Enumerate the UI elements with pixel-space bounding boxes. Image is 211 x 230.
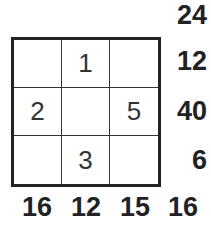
grid-cell-r2c1[interactable]: 3 [62,136,110,184]
grid-cell-r0c1[interactable]: 1 [62,40,110,88]
column-sum-1: 12 [61,192,111,223]
corner-sum: 24 [157,0,207,31]
grid-cell-r2c2[interactable] [110,136,158,184]
puzzle-grid: 1 2 5 3 [11,37,161,187]
grid-cell-r2c0[interactable] [14,136,62,184]
grid-cell-r1c0[interactable]: 2 [14,88,62,136]
grid-cell-r0c0[interactable] [14,40,62,88]
column-sum-2: 15 [110,192,160,223]
grid-cell-r0c2[interactable] [110,40,158,88]
grid-cell-r1c1[interactable] [62,88,110,136]
diagonal-sum: 16 [158,192,208,223]
row-sum-0: 12 [157,46,207,77]
row-sum-1: 40 [157,96,207,127]
grid-cell-r1c2[interactable]: 5 [110,88,158,136]
column-sum-0: 16 [12,192,62,223]
row-sum-2: 6 [157,145,207,176]
